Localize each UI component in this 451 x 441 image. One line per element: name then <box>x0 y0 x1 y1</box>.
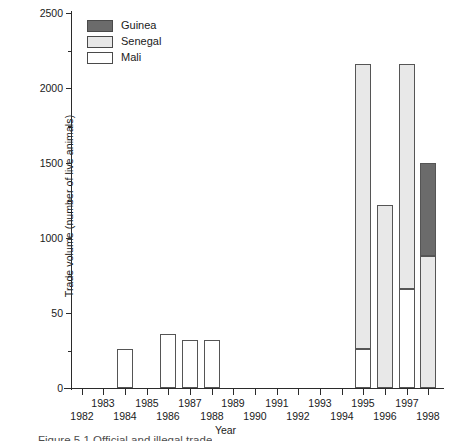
x-tick-1983 <box>103 389 104 395</box>
y-tick-label-500: 50 <box>51 308 63 319</box>
legend-swatch-mali <box>87 52 113 64</box>
bar-1986[interactable] <box>160 334 176 388</box>
x-tick-label-1990: 1990 <box>243 411 266 422</box>
bar-segment-1987-mali[interactable] <box>182 340 198 388</box>
plot-area <box>71 13 439 388</box>
legend-label-mali: Mali <box>121 52 141 63</box>
x-tick-label-1985: 1985 <box>135 398 158 409</box>
x-tick-1987 <box>190 389 191 395</box>
x-tick-1986 <box>168 389 169 395</box>
legend-label-senegal: Senegal <box>121 36 161 47</box>
bar-segment-1984-mali[interactable] <box>117 349 133 388</box>
bar-segment-1986-mali[interactable] <box>160 334 176 388</box>
x-tick-label-1983: 1983 <box>91 398 114 409</box>
x-tick-label-1991: 1991 <box>265 398 288 409</box>
bar-segment-1997-mali[interactable] <box>399 289 415 388</box>
bar-1997[interactable] <box>399 64 415 388</box>
bar-1995[interactable] <box>355 64 371 388</box>
y-tick-label-2500: 2500 <box>40 8 63 19</box>
y-tick-label-1000: 1000 <box>40 233 63 244</box>
x-tick-1992 <box>298 389 299 395</box>
x-tick-1995 <box>363 389 364 395</box>
x-tick-1982 <box>82 389 83 395</box>
x-tick-label-1997: 1997 <box>395 398 418 409</box>
legend-item-mali: Mali <box>87 50 197 65</box>
bar-segment-1996-senegal[interactable] <box>377 205 393 388</box>
x-tick-1996 <box>385 389 386 395</box>
x-tick-1985 <box>147 389 148 395</box>
x-tick-1988 <box>212 389 213 395</box>
x-tick-label-1998: 1998 <box>416 411 439 422</box>
y-tick-label-0: 0 <box>57 383 63 394</box>
bar-1988[interactable] <box>204 340 220 388</box>
x-tick-label-1987: 1987 <box>178 398 201 409</box>
x-tick-label-1982: 1982 <box>70 411 93 422</box>
x-tick-label-1988: 1988 <box>200 411 223 422</box>
x-tick-1994 <box>342 389 343 395</box>
bar-1984[interactable] <box>117 349 133 388</box>
x-tick-label-1995: 1995 <box>351 398 374 409</box>
chart-figure: Trade volume (number of live animals) 05… <box>0 0 451 441</box>
x-tick-label-1986: 1986 <box>156 411 179 422</box>
bar-segment-1998-guinea[interactable] <box>420 163 436 256</box>
x-tick-label-1993: 1993 <box>308 398 331 409</box>
x-tick-label-1992: 1992 <box>286 411 309 422</box>
x-tick-1984 <box>125 389 126 395</box>
y-axis-ticks: 0501000150020002500 <box>0 0 72 441</box>
bar-1996[interactable] <box>377 205 393 388</box>
x-axis-line <box>64 388 444 389</box>
legend-swatch-senegal <box>87 36 113 48</box>
chart-legend: Guinea Senegal Mali <box>87 18 197 66</box>
x-tick-1991 <box>277 389 278 395</box>
legend-label-guinea: Guinea <box>121 20 156 31</box>
y-tick-label-2000: 2000 <box>40 83 63 94</box>
x-tick-label-1989: 1989 <box>221 398 244 409</box>
bar-1998[interactable] <box>420 163 436 388</box>
legend-item-senegal: Senegal <box>87 34 197 49</box>
x-tick-1998 <box>428 389 429 395</box>
bar-segment-1988-mali[interactable] <box>204 340 220 388</box>
y-tick-label-1500: 1500 <box>40 158 63 169</box>
x-tick-label-1984: 1984 <box>113 411 136 422</box>
bar-1987[interactable] <box>182 340 198 388</box>
x-tick-1997 <box>407 389 408 395</box>
x-tick-1993 <box>320 389 321 395</box>
legend-item-guinea: Guinea <box>87 18 197 33</box>
x-tick-1990 <box>255 389 256 395</box>
x-tick-1989 <box>233 389 234 395</box>
bar-segment-1997-senegal[interactable] <box>399 64 415 289</box>
x-tick-label-1996: 1996 <box>373 411 396 422</box>
bar-segment-1998-senegal[interactable] <box>420 256 436 388</box>
bar-segment-1995-mali[interactable] <box>355 349 371 388</box>
x-tick-label-1994: 1994 <box>330 411 353 422</box>
legend-swatch-guinea <box>87 20 113 32</box>
bar-segment-1995-senegal[interactable] <box>355 64 371 349</box>
figure-caption: Figure 5.1 Official and illegal trade <box>38 434 212 441</box>
